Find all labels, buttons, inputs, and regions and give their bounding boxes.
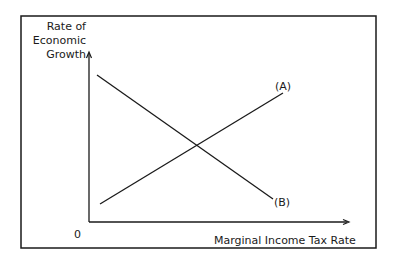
y-axis-label-line-1: Rate of	[47, 20, 87, 33]
line-b-label: (B)	[274, 196, 290, 209]
line-a-label: (A)	[275, 80, 291, 93]
diagram-canvas: Rate of Economic Growth 0 Marginal Incom…	[0, 0, 395, 266]
line-b	[97, 75, 273, 199]
y-axis-label-line-2: Economic	[33, 34, 86, 47]
y-axis-label-line-3: Growth	[46, 48, 86, 61]
x-axis-label: Marginal Income Tax Rate	[214, 234, 356, 247]
origin-label: 0	[74, 228, 81, 241]
